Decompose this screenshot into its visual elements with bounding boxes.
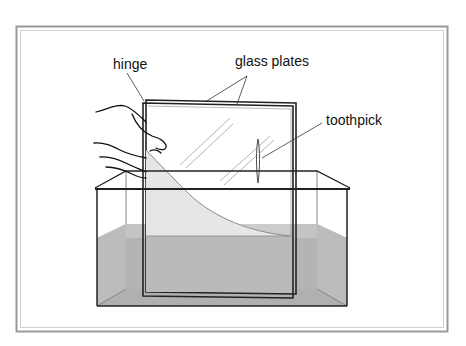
diagram-canvas: hinge glass plates toothpick bbox=[0, 0, 466, 346]
label-toothpick: toothpick bbox=[326, 112, 383, 128]
toothpick bbox=[257, 139, 260, 183]
label-hinge: hinge bbox=[113, 56, 147, 72]
label-glass-plates: glass plates bbox=[235, 53, 309, 69]
glass-plates bbox=[143, 100, 296, 298]
